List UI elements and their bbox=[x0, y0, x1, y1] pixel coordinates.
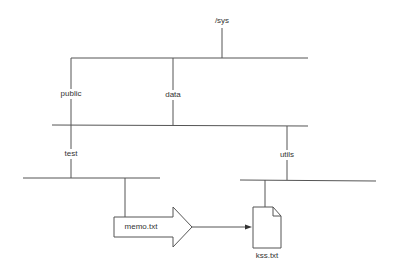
node-label-kss: kss.txt bbox=[256, 251, 279, 261]
arrowhead-icon bbox=[245, 225, 252, 230]
tree-lines bbox=[0, 0, 400, 268]
node-label-memo: memo.txt bbox=[125, 222, 158, 232]
utils-bus-line bbox=[240, 180, 376, 181]
node-label-data: data bbox=[164, 90, 182, 100]
directory-tree-diagram: /sys public data test utils memo.txt kss… bbox=[0, 0, 400, 268]
kss-document-icon bbox=[253, 207, 281, 248]
node-label-sys: /sys bbox=[215, 16, 229, 26]
node-label-test: test bbox=[64, 149, 79, 159]
level2-bus-line bbox=[52, 125, 308, 126]
node-label-public: public bbox=[60, 89, 83, 99]
node-label-utils: utils bbox=[279, 150, 295, 160]
